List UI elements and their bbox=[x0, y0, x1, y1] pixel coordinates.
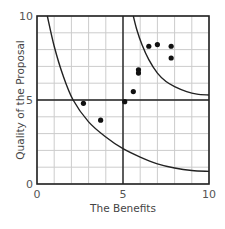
data-point bbox=[169, 55, 174, 60]
data-point bbox=[146, 44, 151, 49]
data-point bbox=[169, 44, 174, 49]
y-tick-label: 5 bbox=[26, 94, 33, 107]
data-point bbox=[81, 101, 86, 106]
data-points bbox=[81, 42, 174, 123]
y-tick-label: 0 bbox=[26, 178, 33, 191]
tick-labels: 05100510 bbox=[19, 10, 216, 201]
x-tick-label: 10 bbox=[202, 188, 216, 201]
data-point bbox=[98, 118, 103, 123]
quality-benefits-chart: 05100510 The Benefits Quality of the Pro… bbox=[0, 0, 225, 229]
y-tick-label: 10 bbox=[19, 10, 33, 23]
y-axis-label: Quality of the Proposal bbox=[14, 40, 26, 159]
data-point bbox=[122, 99, 127, 104]
data-point bbox=[155, 42, 160, 47]
x-axis-label: The Benefits bbox=[89, 202, 156, 214]
data-point bbox=[131, 89, 136, 94]
data-point bbox=[136, 71, 141, 76]
x-tick-label: 0 bbox=[34, 188, 41, 201]
x-tick-label: 5 bbox=[120, 188, 127, 201]
